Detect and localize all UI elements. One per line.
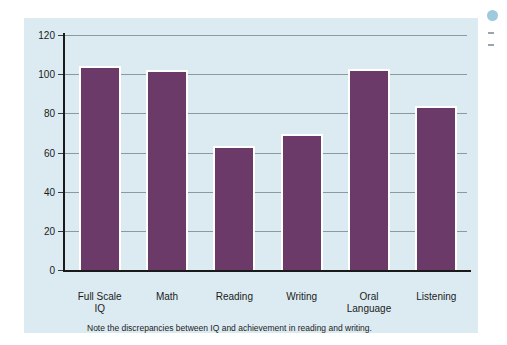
x-axis-category-label: Listening (393, 291, 479, 303)
margin-text-fragment (488, 32, 494, 34)
y-axis-tick-label: 20 (44, 225, 55, 236)
bar (348, 69, 390, 270)
y-axis-tick-label: 80 (44, 108, 55, 119)
gridline (63, 113, 467, 114)
bar (79, 66, 121, 270)
bar (281, 134, 323, 270)
y-axis-tick-label: 60 (44, 147, 55, 158)
x-axis-line (63, 270, 471, 272)
bar (213, 146, 255, 270)
x-axis-category-line: IQ (57, 303, 143, 315)
gridline (63, 74, 467, 75)
y-axis-tick-label: 100 (38, 69, 55, 80)
x-axis-category-line: Language (326, 303, 412, 315)
bar (415, 106, 457, 270)
figure-caption: Note the discrepancies between IQ and ac… (87, 323, 372, 333)
gridline (63, 192, 467, 193)
gridline (63, 153, 467, 154)
y-axis-tick-label: 0 (49, 265, 55, 276)
figure-panel: 020406080100120 Full ScaleIQMathReadingW… (24, 18, 478, 333)
x-axis-category-line: Listening (393, 291, 479, 303)
margin-artifacts (487, 6, 507, 76)
gridline (63, 35, 467, 36)
bar (146, 70, 188, 270)
y-axis-line (63, 33, 65, 272)
gridline (63, 231, 467, 232)
plot-area: 020406080100120 Full ScaleIQMathReadingW… (63, 35, 467, 270)
y-axis-tick-label: 120 (38, 30, 55, 41)
margin-text-fragment (488, 44, 494, 46)
y-axis-tick-label: 40 (44, 186, 55, 197)
margin-bullet-icon (487, 10, 498, 21)
